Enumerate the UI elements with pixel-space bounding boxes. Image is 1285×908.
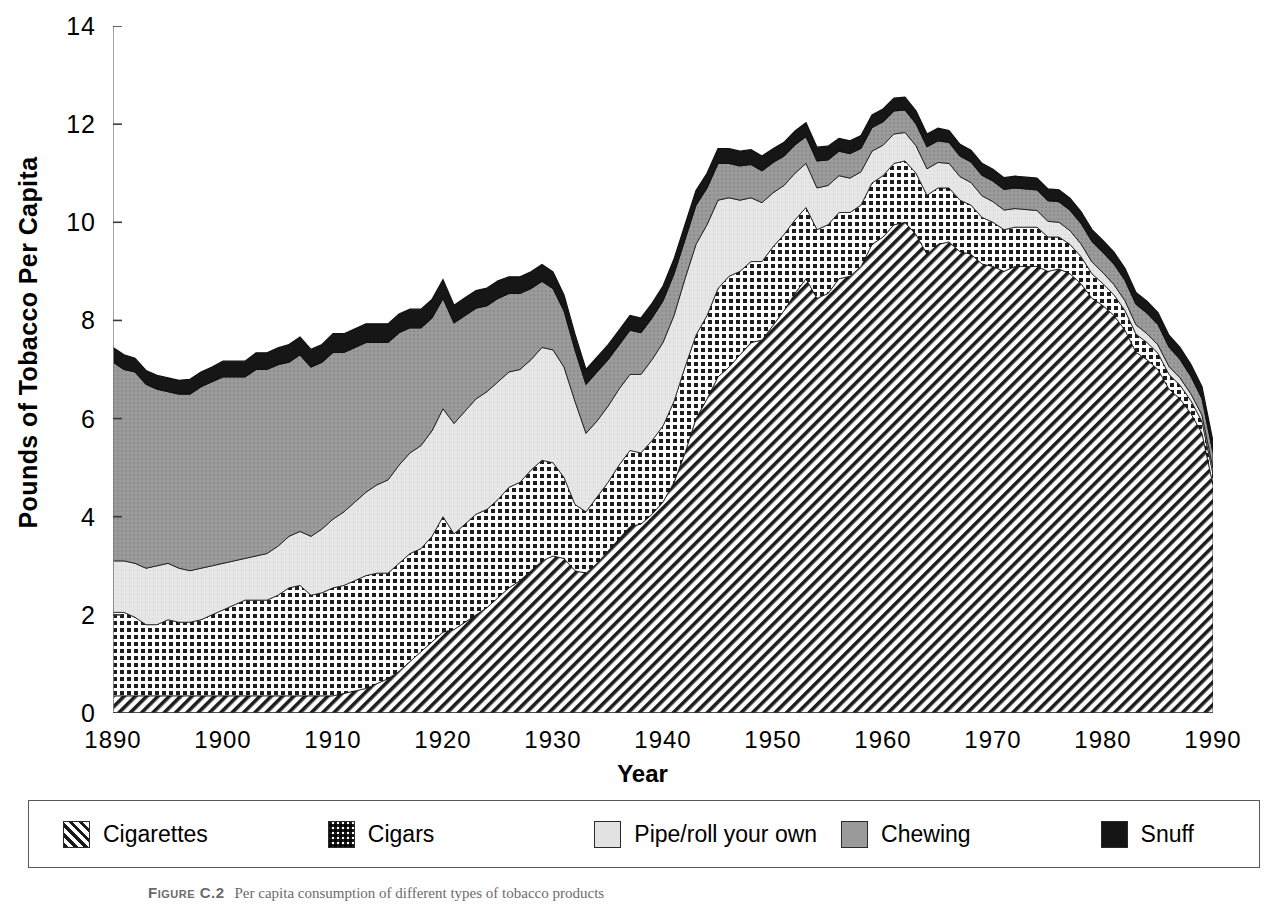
- legend-item-pipe-roll-your-own[interactable]: Pipe/roll your own: [594, 821, 817, 848]
- legend-item-snuff[interactable]: Snuff: [1101, 821, 1194, 848]
- x-tick-1900: 1900: [194, 726, 251, 754]
- figure-tobacco-consumption: Pounds of Tobacco Per Capita 02468101214: [0, 0, 1285, 908]
- plot-area: [113, 26, 1213, 713]
- x-tick-1920: 1920: [414, 726, 471, 754]
- legend-item-cigars[interactable]: Cigars: [328, 821, 434, 848]
- y-tick-8: 8: [36, 306, 96, 335]
- legend-label: Pipe/roll your own: [634, 821, 817, 848]
- snuff-swatch-black: [1101, 821, 1128, 848]
- stacked-area-chart: [113, 26, 1213, 713]
- figure-caption: Figure C.2Per capita consumption of diff…: [148, 884, 1148, 902]
- cigars-swatch-checkerboard: [328, 821, 355, 848]
- legend-item-cigarettes[interactable]: Cigarettes: [63, 821, 208, 848]
- cigarettes-swatch-diagonal-hatch: [63, 821, 90, 848]
- chart-legend: CigarettesCigarsPipe/roll your ownChewin…: [28, 800, 1260, 868]
- x-tick-1910: 1910: [304, 726, 361, 754]
- x-tick-1930: 1930: [524, 726, 581, 754]
- pipe-swatch-light-gray: [594, 821, 621, 848]
- legend-label: Cigarettes: [103, 821, 208, 848]
- y-tick-6: 6: [36, 404, 96, 433]
- legend-label: Chewing: [881, 821, 971, 848]
- y-tick-12: 12: [36, 110, 96, 139]
- x-tick-1990: 1990: [1184, 726, 1241, 754]
- x-tick-1980: 1980: [1074, 726, 1131, 754]
- legend-label: Snuff: [1141, 821, 1194, 848]
- x-tick-1890: 1890: [84, 726, 141, 754]
- y-tick-2: 2: [36, 600, 96, 629]
- y-tick-10: 10: [36, 208, 96, 237]
- x-axis-label: Year: [0, 760, 1285, 788]
- chewing-swatch-medium-gray: [841, 821, 868, 848]
- y-tick-14: 14: [36, 12, 96, 41]
- figure-number: Figure C.2: [148, 884, 225, 901]
- caption-text: Per capita consumption of different type…: [235, 885, 605, 901]
- x-tick-1970: 1970: [964, 726, 1021, 754]
- x-tick-1960: 1960: [854, 726, 911, 754]
- x-tick-1940: 1940: [634, 726, 691, 754]
- series-layers: [113, 97, 1213, 713]
- y-tick-4: 4: [36, 502, 96, 531]
- legend-item-chewing[interactable]: Chewing: [841, 821, 971, 848]
- legend-label: Cigars: [368, 821, 434, 848]
- legend-row: CigarettesCigarsPipe/roll your ownChewin…: [29, 801, 1259, 867]
- x-tick-1950: 1950: [744, 726, 801, 754]
